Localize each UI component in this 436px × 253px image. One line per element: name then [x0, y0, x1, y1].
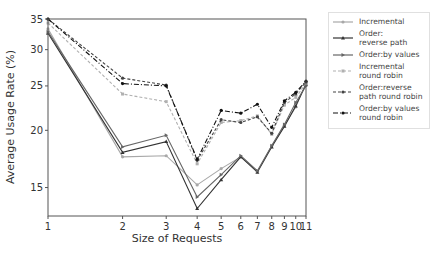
x-tick-label: 1: [45, 221, 51, 232]
legend-swatch-icon: [332, 34, 354, 42]
legend-item: Order:by values round robin: [332, 104, 427, 122]
x-tick-label: 11: [300, 221, 313, 232]
series-line: [47, 30, 309, 199]
series-line: [46, 27, 307, 186]
x-tick-label: 9: [281, 221, 287, 232]
legend-swatch-icon: [332, 88, 354, 96]
y-tick-label: 15: [30, 182, 43, 193]
legend-label: Order: reverse path: [359, 29, 407, 47]
x-axis-title: Size of Requests: [132, 232, 223, 245]
legend-item: Order:by values: [332, 50, 427, 59]
y-axis-title: Average Usage Rate (%): [4, 50, 17, 184]
x-tick-label: 3: [163, 221, 169, 232]
legend-label: Incremental: [359, 17, 404, 26]
x-axis-ticks: 1234567891011: [45, 216, 313, 232]
legend-item: Order:reverse path round robin: [332, 83, 427, 101]
y-tick-label: 30: [30, 44, 43, 55]
y-axis-ticks: 1520253035: [30, 14, 48, 194]
legend-swatch-icon: [332, 109, 354, 117]
legend-swatch-icon: [332, 18, 354, 26]
x-tick-label: 5: [218, 221, 224, 232]
x-tick-label: 2: [119, 221, 125, 232]
legend-item: Incremental round robin: [332, 62, 427, 80]
legend-swatch-icon: [332, 51, 354, 59]
x-tick-label: 4: [194, 221, 200, 232]
chart-legend: IncrementalOrder: reverse pathOrder:by v…: [328, 12, 430, 129]
y-tick-label: 20: [30, 125, 43, 136]
y-tick-label: 35: [30, 14, 43, 25]
legend-label: Order:by values: [359, 50, 419, 59]
x-tick-label: 6: [238, 221, 244, 232]
legend-item: Order: reverse path: [332, 29, 427, 47]
legend-label: Incremental round robin: [359, 62, 404, 80]
legend-item: Incremental: [332, 17, 427, 26]
y-tick-label: 25: [30, 80, 43, 91]
legend-swatch-icon: [332, 67, 354, 75]
legend-label: Order:reverse path round robin: [359, 83, 422, 101]
legend-label: Order:by values round robin: [359, 104, 419, 122]
plot-lines: [46, 17, 308, 210]
x-tick-label: 8: [269, 221, 275, 232]
x-tick-label: 7: [254, 221, 260, 232]
plot-frame: [48, 19, 306, 216]
